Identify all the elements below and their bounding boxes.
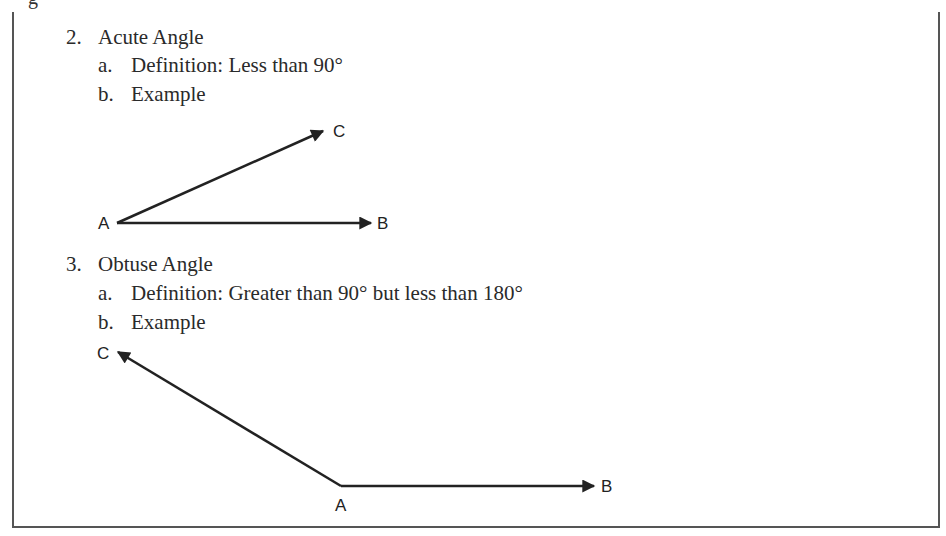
- ray-ac-arrow-icon: [117, 131, 323, 223]
- point-a-label: A: [335, 496, 347, 515]
- acute-angle-diagram: A C B: [98, 122, 388, 233]
- point-c-label: C: [97, 344, 109, 363]
- point-b-label: B: [601, 477, 612, 496]
- angle-diagrams: A C B A C B: [0, 0, 946, 536]
- ray-ac-arrow-icon: [118, 352, 341, 486]
- point-a-label: A: [98, 214, 110, 233]
- point-c-label: C: [333, 122, 345, 141]
- point-b-label: B: [377, 214, 388, 233]
- obtuse-angle-diagram: A C B: [97, 344, 612, 515]
